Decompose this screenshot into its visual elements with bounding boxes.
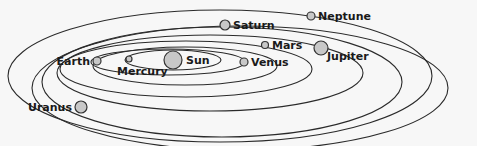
mercury-icon	[126, 56, 132, 62]
venus-label: Venus	[251, 56, 289, 69]
uranus-icon	[75, 101, 87, 113]
earth-icon	[93, 57, 101, 65]
orbit-neptune	[8, 10, 432, 142]
solar-system-diagram: SunMercuryVenusEarthMarsJupiterSaturnUra…	[0, 0, 477, 146]
uranus-label: Uranus	[28, 101, 72, 114]
earth-label: Earth	[57, 55, 90, 68]
neptune-icon	[307, 12, 315, 20]
orbits	[8, 10, 448, 146]
jupiter-icon	[314, 41, 328, 55]
mars-icon	[262, 42, 269, 49]
jupiter-label: Jupiter	[326, 50, 369, 63]
sun-label: Sun	[186, 54, 210, 67]
neptune-label: Neptune	[318, 10, 371, 23]
venus-icon	[240, 58, 248, 66]
mercury-label: Mercury	[117, 65, 168, 78]
saturn-icon	[220, 20, 230, 30]
labels: SunMercuryVenusEarthMarsJupiterSaturnUra…	[28, 10, 371, 114]
mars-label: Mars	[272, 39, 303, 52]
saturn-label: Saturn	[233, 19, 275, 32]
